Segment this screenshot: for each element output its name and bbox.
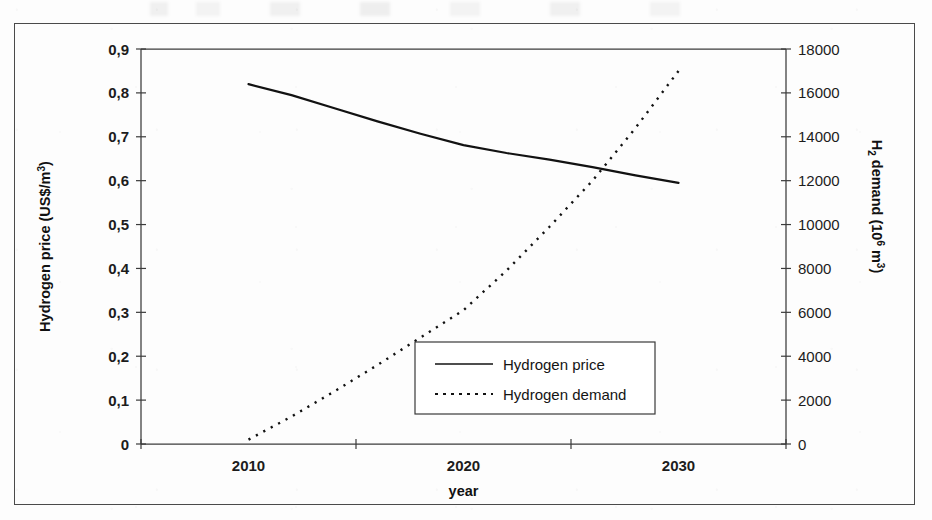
legend-box bbox=[415, 342, 655, 414]
left-axis-tick-label: 0,2 bbox=[108, 348, 129, 365]
left-axis-tick-label: 0,8 bbox=[108, 84, 129, 101]
hydrogen-price-demand-chart: 00,10,20,30,40,50,60,70,80,9020004000600… bbox=[15, 24, 916, 506]
left-axis-tick-label: 0 bbox=[121, 436, 129, 453]
right-axis-tick-label: 18000 bbox=[798, 41, 840, 58]
legend-label: Hydrogen price bbox=[503, 356, 605, 373]
figure-frame: 00,10,20,30,40,50,60,70,80,9020004000600… bbox=[14, 23, 915, 505]
left-axis-title: Hydrogen price (US$/m3) bbox=[36, 161, 53, 332]
right-axis-tick-label: 12000 bbox=[798, 172, 840, 189]
right-axis-title: H2 demand (106 m3) bbox=[866, 140, 886, 274]
right-axis-tick-label: 8000 bbox=[798, 260, 831, 277]
right-axis-tick-label: 14000 bbox=[798, 128, 840, 145]
x-axis-tick-label: 2010 bbox=[232, 457, 265, 474]
right-axis-tick-label: 0 bbox=[798, 436, 806, 453]
right-axis-tick-label: 2000 bbox=[798, 392, 831, 409]
legend-label: Hydrogen demand bbox=[503, 386, 626, 403]
left-axis-tick-label: 0,9 bbox=[108, 41, 129, 58]
left-axis-tick-label: 0,3 bbox=[108, 304, 129, 321]
left-axis-tick-label: 0,6 bbox=[108, 172, 129, 189]
series-line-hydrogen-price bbox=[249, 84, 679, 183]
x-axis-tick-label: 2030 bbox=[662, 457, 695, 474]
x-axis-title: year bbox=[449, 483, 479, 499]
left-axis-tick-label: 0,5 bbox=[108, 216, 129, 233]
right-axis-tick-label: 6000 bbox=[798, 304, 831, 321]
left-axis-tick-label: 0,1 bbox=[108, 392, 129, 409]
chart-plot-area: 00,10,20,30,40,50,60,70,80,9020004000600… bbox=[15, 24, 914, 504]
right-axis-tick-label: 16000 bbox=[798, 84, 840, 101]
right-axis-tick-label: 4000 bbox=[798, 348, 831, 365]
right-axis-tick-label: 10000 bbox=[798, 216, 840, 233]
svg-text:Hydrogen price (US$/m3): Hydrogen price (US$/m3) bbox=[36, 161, 53, 332]
left-axis-tick-label: 0,4 bbox=[108, 260, 130, 277]
left-axis-tick-label: 0,7 bbox=[108, 128, 129, 145]
x-axis-tick-label: 2020 bbox=[447, 457, 480, 474]
svg-text:H2 demand (106 m3): H2 demand (106 m3) bbox=[866, 140, 886, 274]
